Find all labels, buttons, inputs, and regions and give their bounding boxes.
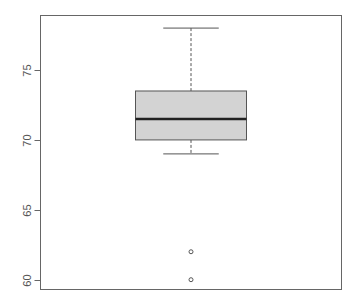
box-plot xyxy=(136,28,247,282)
y-tick-label: 60 xyxy=(21,274,33,286)
iqr-box xyxy=(136,91,247,140)
chart-canvas: 60657075 xyxy=(0,0,358,307)
y-tick-label: 70 xyxy=(21,134,33,146)
y-axis: 60657075 xyxy=(21,64,41,286)
outlier-points xyxy=(189,250,193,282)
outlier-point xyxy=(189,250,193,254)
boxplot-chart: 60657075 xyxy=(0,0,358,307)
y-tick-label: 65 xyxy=(21,204,33,216)
outlier-point xyxy=(189,278,193,282)
y-tick-label: 75 xyxy=(21,64,33,76)
